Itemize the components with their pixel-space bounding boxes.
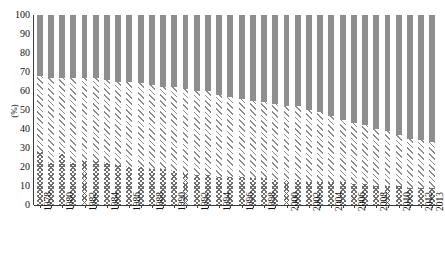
bar-2010	[396, 15, 402, 205]
bar-segment-x-hatch-segment	[194, 175, 200, 205]
bar-segment-diagonal-hatch-segment	[37, 76, 43, 152]
x-tick-label-1988: 1988	[156, 192, 166, 211]
plot-area	[34, 15, 438, 205]
bar-1979	[48, 15, 54, 205]
bar-segment-solid-segment	[205, 15, 211, 91]
bar-segment-diagonal-hatch-segment	[59, 78, 65, 154]
y-tick-label: 20	[0, 162, 30, 172]
x-tick-mark	[85, 205, 86, 208]
x-tick-label-2002: 2002	[313, 192, 323, 211]
bar-segment-diagonal-hatch-segment	[126, 82, 132, 168]
x-tick-mark	[309, 205, 310, 208]
y-tick-label: 40	[0, 124, 30, 134]
bar-1986	[126, 15, 132, 205]
x-tick-label-2012: 2012	[425, 192, 435, 211]
x-tick-mark	[410, 205, 411, 208]
bar-segment-solid-segment	[93, 15, 99, 78]
bar-segment-diagonal-hatch-segment	[115, 82, 121, 166]
bar-1989	[160, 15, 166, 205]
bar-segment-solid-segment	[295, 15, 301, 106]
x-tick-mark	[51, 205, 52, 208]
y-tick-label: 30	[0, 143, 30, 153]
x-tick-label-1984: 1984	[111, 192, 121, 211]
bar-segment-solid-segment	[48, 15, 54, 78]
bar-segment-solid-segment	[70, 15, 76, 78]
x-tick-label-2006: 2006	[358, 192, 368, 211]
bar-segment-solid-segment	[82, 15, 88, 78]
bar-segment-solid-segment	[183, 15, 189, 89]
x-tick-mark	[421, 205, 422, 208]
bar-segment-diagonal-hatch-segment	[317, 112, 323, 182]
x-tick-label-2013: 2013	[436, 192, 445, 211]
bar-1993	[205, 15, 211, 205]
bar-segment-diagonal-hatch-segment	[250, 101, 256, 179]
x-tick-mark	[343, 205, 344, 208]
bar-segment-diagonal-hatch-segment	[261, 102, 267, 178]
bar-1983	[93, 15, 99, 205]
x-tick-mark	[242, 205, 243, 208]
bar-segment-solid-segment	[194, 15, 200, 91]
bar-1980	[59, 15, 65, 205]
bar-1981	[70, 15, 76, 205]
bar-segment-x-hatch-segment	[306, 182, 312, 205]
x-tick-mark	[388, 205, 389, 208]
bar-segment-solid-segment	[239, 15, 245, 99]
x-tick-mark	[376, 205, 377, 208]
x-tick-label-1982: 1982	[89, 192, 99, 211]
x-tick-label-1992: 1992	[201, 192, 211, 211]
bar-1998	[261, 15, 267, 205]
bar-segment-solid-segment	[216, 15, 222, 95]
bar-segment-diagonal-hatch-segment	[70, 78, 76, 164]
bar-segment-solid-segment	[351, 15, 357, 123]
x-tick-label-1986: 1986	[133, 192, 143, 211]
bar-2007	[362, 15, 368, 205]
y-tick-label: 60	[0, 86, 30, 96]
bar-segment-solid-segment	[284, 15, 290, 106]
bar-segment-solid-segment	[396, 15, 402, 135]
bar-segment-solid-segment	[373, 15, 379, 129]
bar-2002	[306, 15, 312, 205]
bar-segment-solid-segment	[149, 15, 155, 85]
bar-1995	[227, 15, 233, 205]
x-tick-mark	[298, 205, 299, 208]
bar-segment-x-hatch-segment	[396, 186, 402, 205]
bar-segment-solid-segment	[59, 15, 65, 78]
x-tick-mark	[320, 205, 321, 208]
x-tick-mark	[141, 205, 142, 208]
bar-1997	[250, 15, 256, 205]
bar-segment-diagonal-hatch-segment	[385, 131, 391, 186]
bar-segment-solid-segment	[227, 15, 233, 97]
bar-segment-diagonal-hatch-segment	[351, 123, 357, 184]
bar-2013	[429, 15, 435, 205]
bar-2003	[317, 15, 323, 205]
bar-2001	[295, 15, 301, 205]
bar-2009	[385, 15, 391, 205]
x-tick-label-2000: 2000	[291, 192, 301, 211]
x-tick-mark	[118, 205, 119, 208]
bar-segment-solid-segment	[362, 15, 368, 125]
bar-segment-solid-segment	[138, 15, 144, 83]
bar-segment-solid-segment	[104, 15, 110, 80]
bar-segment-solid-segment	[407, 15, 413, 139]
x-tick-mark	[163, 205, 164, 208]
x-tick-label-1980: 1980	[66, 192, 76, 211]
x-tick-label-1990: 1990	[178, 192, 188, 211]
bar-2000	[284, 15, 290, 205]
bar-segment-diagonal-hatch-segment	[306, 110, 312, 182]
bar-segment-solid-segment	[385, 15, 391, 131]
bar-segment-solid-segment	[250, 15, 256, 101]
y-tick-label: 80	[0, 48, 30, 58]
bar-segment-solid-segment	[272, 15, 278, 104]
x-tick-mark	[96, 205, 97, 208]
bar-1991	[183, 15, 189, 205]
x-tick-mark	[152, 205, 153, 208]
x-tick-mark	[197, 205, 198, 208]
bar-segment-diagonal-hatch-segment	[373, 129, 379, 186]
bar-2006	[351, 15, 357, 205]
x-tick-mark	[129, 205, 130, 208]
x-tick-mark	[432, 205, 433, 208]
x-tick-mark	[186, 205, 187, 208]
bar-segment-x-hatch-segment	[284, 180, 290, 205]
bar-segment-solid-segment	[171, 15, 177, 87]
bar-1987	[138, 15, 144, 205]
